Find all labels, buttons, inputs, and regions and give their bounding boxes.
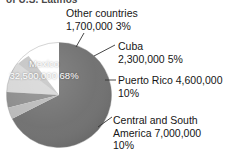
pie-chart-figure: of U.S. Latinos Mexico 32 — [0, 0, 238, 160]
callout-puerto-rico: Puerto Rico 4,600,000 10% — [118, 74, 236, 99]
callout-other-countries: Other countries 1,700,000 3% — [66, 7, 171, 32]
chart-title-fragment: of U.S. Latinos — [6, 0, 78, 5]
callout-central-south-america: Central and South America 7,000,000 10% — [113, 114, 235, 152]
pie-graphic — [6, 42, 112, 148]
callout-cuba: Cuba 2,300,000 5% — [118, 40, 228, 65]
pie-svg — [6, 42, 112, 148]
